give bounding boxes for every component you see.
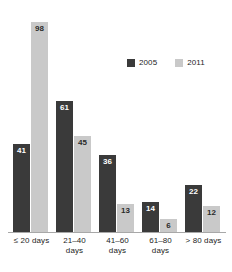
bar-value-label: 41 <box>13 146 30 155</box>
x-axis-label-line: 61–80 <box>136 236 185 246</box>
x-axis-label-line: > 80 days <box>179 236 228 246</box>
bar-2011-1: 98 <box>31 22 48 232</box>
x-axis-label-5: > 80 days <box>179 236 228 246</box>
bar-value-label: 36 <box>99 157 116 166</box>
x-axis-label-line: days <box>50 246 99 256</box>
bar-value-label: 6 <box>160 221 177 230</box>
plot-area: 4198614536131462212 <box>0 0 232 233</box>
x-axis-category-labels: ≤ 20 days21–40days41–60days61–80days> 80… <box>0 236 232 272</box>
bar-value-label: 22 <box>185 187 202 196</box>
bar-2011-4: 6 <box>160 219 177 232</box>
bar-2011-5: 12 <box>203 206 220 232</box>
bar-2005-1: 41 <box>13 144 30 232</box>
x-axis-baseline <box>8 232 226 233</box>
bar-2005-3: 36 <box>99 155 116 232</box>
bar-2011-3: 13 <box>117 204 134 232</box>
bar-2011-2: 45 <box>74 136 91 232</box>
bar-2005-4: 14 <box>142 202 159 232</box>
bar-2005-5: 22 <box>185 185 202 232</box>
x-axis-label-4: 61–80days <box>136 236 185 256</box>
bar-2005-2: 61 <box>56 101 73 232</box>
x-axis-label-2: 21–40days <box>50 236 99 256</box>
bar-value-label: 12 <box>203 208 220 217</box>
x-axis-label-line: days <box>93 246 142 256</box>
x-axis-label-1: ≤ 20 days <box>7 236 56 246</box>
bar-value-label: 61 <box>56 103 73 112</box>
x-axis-label-3: 41–60days <box>93 236 142 256</box>
x-axis-label-line: ≤ 20 days <box>7 236 56 246</box>
bar-value-label: 13 <box>117 206 134 215</box>
bar-value-label: 14 <box>142 204 159 213</box>
x-axis-label-line: 21–40 <box>50 236 99 246</box>
bar-chart: 2005 2011 4198614536131462212 ≤ 20 days2… <box>0 0 232 272</box>
bar-value-label: 98 <box>31 24 48 33</box>
x-axis-label-line: 41–60 <box>93 236 142 246</box>
x-axis-label-line: days <box>136 246 185 256</box>
bar-value-label: 45 <box>74 138 91 147</box>
